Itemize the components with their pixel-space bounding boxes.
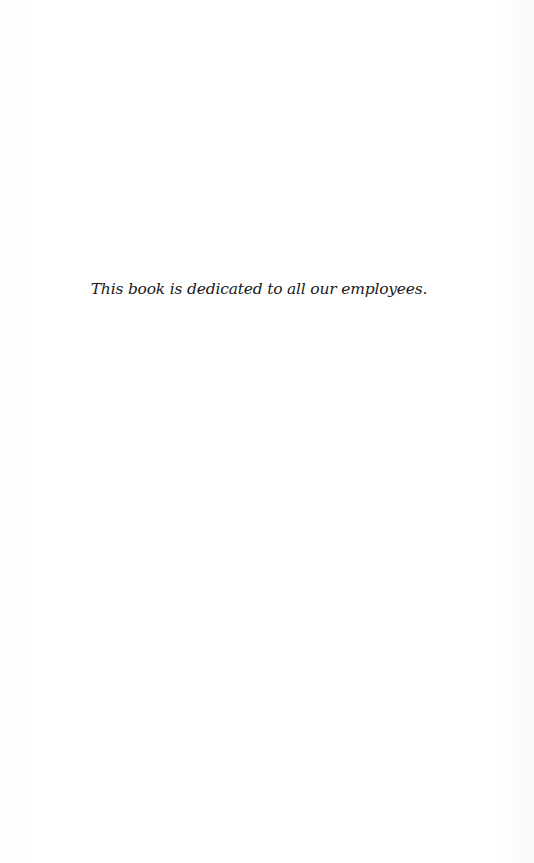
dedication-text: This book is dedicated to all our employ…: [0, 280, 518, 298]
book-page: This book is dedicated to all our employ…: [0, 0, 534, 863]
